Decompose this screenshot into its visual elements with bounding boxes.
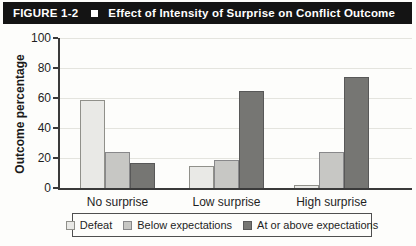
y-axis-tick-label: 20 bbox=[38, 151, 51, 165]
y-axis-tick-label: 0 bbox=[44, 181, 51, 195]
legend-label: At or above expectations bbox=[257, 219, 378, 231]
bar-group bbox=[189, 38, 264, 188]
x-axis-category-label: Low surprise bbox=[192, 195, 260, 209]
y-axis-tick-label: 40 bbox=[38, 121, 51, 135]
x-axis-category-label: High surprise bbox=[296, 195, 367, 209]
legend-label: Defeat bbox=[80, 219, 112, 231]
y-axis-tick-label: 100 bbox=[31, 31, 51, 45]
bar-group bbox=[294, 38, 369, 188]
y-axis-tick bbox=[53, 187, 58, 189]
y-axis-tick bbox=[53, 67, 58, 69]
y-axis-tick bbox=[53, 37, 58, 39]
y-axis-tick bbox=[53, 157, 58, 159]
figure-title: Effect of Intensity of Surprise on Confl… bbox=[108, 7, 395, 19]
legend-item: Below expectations bbox=[123, 219, 232, 231]
legend-swatch bbox=[243, 221, 252, 230]
y-axis-tick bbox=[53, 127, 58, 129]
bar bbox=[80, 100, 105, 189]
figure-number-label: FIGURE 1-2 bbox=[13, 7, 78, 19]
figure-page: FIGURE 1-2 Effect of Intensity of Surpri… bbox=[0, 0, 416, 246]
plot-area: 020406080100No surpriseLow surpriseHigh … bbox=[58, 38, 412, 190]
x-axis-category-label: No surprise bbox=[87, 195, 148, 209]
bar bbox=[319, 152, 344, 188]
bar bbox=[189, 166, 214, 189]
legend-label: Below expectations bbox=[137, 219, 232, 231]
bar bbox=[344, 77, 369, 188]
bar bbox=[294, 185, 319, 188]
legend-item: Defeat bbox=[66, 219, 112, 231]
bar bbox=[214, 160, 239, 189]
legend-swatch bbox=[66, 221, 75, 230]
bar bbox=[105, 152, 130, 188]
square-bullet-icon bbox=[91, 10, 98, 17]
bar-group bbox=[80, 38, 155, 188]
legend-swatch bbox=[123, 221, 132, 230]
y-axis-label: Outcome percentage bbox=[13, 54, 27, 173]
figure-title-bar: FIGURE 1-2 Effect of Intensity of Surpri… bbox=[3, 2, 412, 24]
y-axis-tick-label: 60 bbox=[38, 91, 51, 105]
y-axis-tick bbox=[53, 97, 58, 99]
y-axis-tick-label: 80 bbox=[38, 61, 51, 75]
legend: DefeatBelow expectationsAt or above expe… bbox=[72, 213, 372, 237]
legend-item: At or above expectations bbox=[243, 219, 378, 231]
bar bbox=[130, 163, 155, 189]
bar bbox=[239, 91, 264, 189]
